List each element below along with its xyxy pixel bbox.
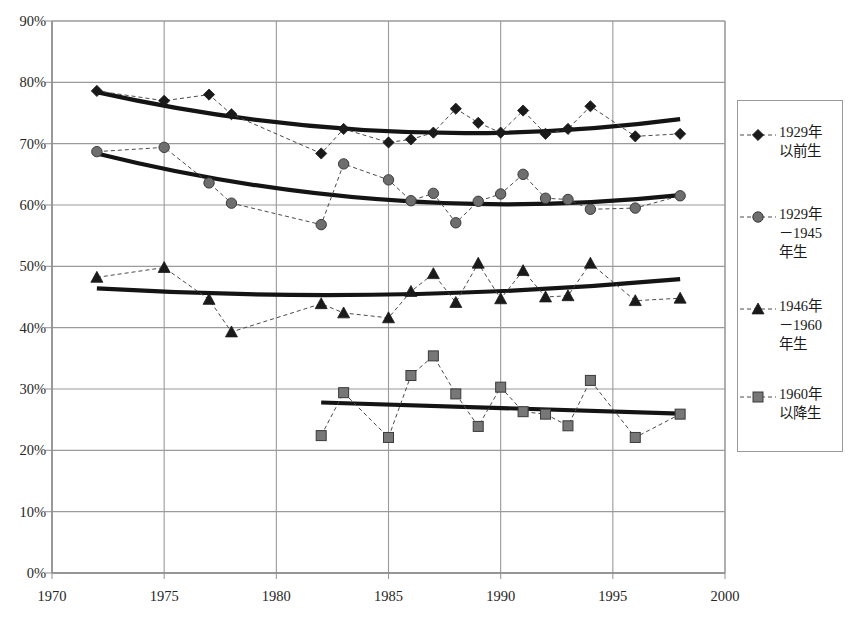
circle-icon — [738, 207, 778, 227]
x-tick-label: 1995 — [598, 588, 627, 605]
chart-legend: 1929年 以前生1929年 －1945 年生1946年 －1960 年生196… — [737, 100, 843, 452]
legend-item-1[interactable]: 1929年 －1945 年生 — [738, 205, 844, 262]
x-tick-label: 1980 — [262, 588, 291, 605]
legend-item-label: 1929年 －1945 年生 — [778, 205, 822, 262]
legend-item-label: 1960年 以降生 — [778, 385, 822, 423]
legend-item-0[interactable]: 1929年 以前生 — [738, 123, 844, 161]
legend-item-label: 1946年 －1960 年生 — [778, 297, 822, 354]
legend-item-2[interactable]: 1946年 －1960 年生 — [738, 297, 844, 354]
triangle-icon — [738, 299, 778, 319]
x-tick-label: 1985 — [374, 588, 403, 605]
square-icon — [738, 387, 778, 407]
x-tick-label: 1975 — [150, 588, 179, 605]
diamond-icon — [738, 125, 778, 145]
chart-container: 0%10%20%30%40%50%60%70%80%90% 1970197519… — [0, 0, 854, 624]
legend-item-label: 1929年 以前生 — [778, 123, 822, 161]
x-tick-label: 1990 — [486, 588, 515, 605]
legend-item-3[interactable]: 1960年 以降生 — [738, 385, 844, 423]
x-tick-label: 2000 — [711, 588, 740, 605]
x-tick-label: 1970 — [38, 588, 67, 605]
x-axis-tick-labels: 1970197519801985199019952000 — [0, 0, 854, 624]
